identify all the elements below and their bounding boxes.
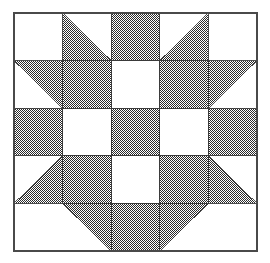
quilt-block-group — [14, 13, 257, 251]
patch-r4c2-square-dark — [111, 203, 160, 251]
patch-r3c1-square-dark — [63, 156, 112, 204]
patch-r0c2-square-dark — [111, 13, 160, 61]
patch-r1c3-square-dark — [160, 61, 209, 109]
quilt-block-figure — [0, 0, 270, 263]
patch-r2c4-square-dark — [208, 108, 257, 156]
patch-r3c3-square-dark — [160, 156, 209, 204]
patch-r1c1-square-dark — [63, 61, 112, 109]
quilt-block-canvas — [0, 0, 270, 263]
patch-r2c2-square-dark — [111, 108, 160, 156]
patch-r2c0-square-dark — [14, 108, 63, 156]
